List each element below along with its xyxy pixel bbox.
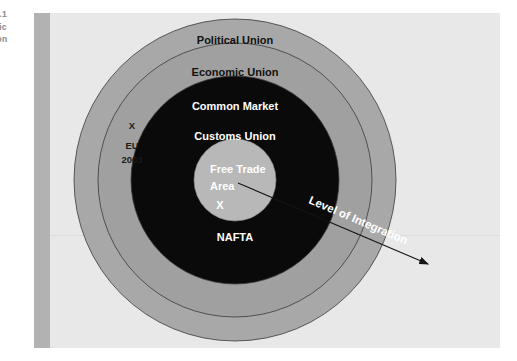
label-customs-union: Customs Union bbox=[194, 130, 276, 142]
figure-screenshot: E 8.1 omic ation Political Union Economi… bbox=[0, 0, 517, 361]
label-common-market: Common Market bbox=[192, 100, 279, 112]
label-eu: EU bbox=[125, 140, 138, 151]
marker-eu-x: X bbox=[129, 120, 136, 131]
label-economic-union: Economic Union bbox=[192, 66, 279, 78]
label-political-union: Political Union bbox=[197, 34, 274, 46]
circle-free-trade-area bbox=[194, 139, 276, 221]
label-eu-year: 2003 bbox=[121, 154, 142, 165]
page-gutter-shadow bbox=[34, 13, 50, 348]
figure-caption-line-2: omic bbox=[0, 21, 34, 34]
label-free-trade-area-line-2: Area bbox=[210, 180, 235, 192]
marker-nafta-x: X bbox=[216, 199, 224, 211]
label-free-trade-area-line-1: Free Trade bbox=[210, 163, 266, 175]
label-nafta: NAFTA bbox=[217, 231, 254, 243]
figure-caption: E 8.1 omic ation bbox=[0, 8, 34, 46]
economic-integration-diagram: Political Union Economic Union Common Ma… bbox=[50, 13, 500, 348]
figure-caption-line-3: ation bbox=[0, 33, 34, 46]
figure-caption-number: E 8.1 bbox=[0, 8, 34, 21]
